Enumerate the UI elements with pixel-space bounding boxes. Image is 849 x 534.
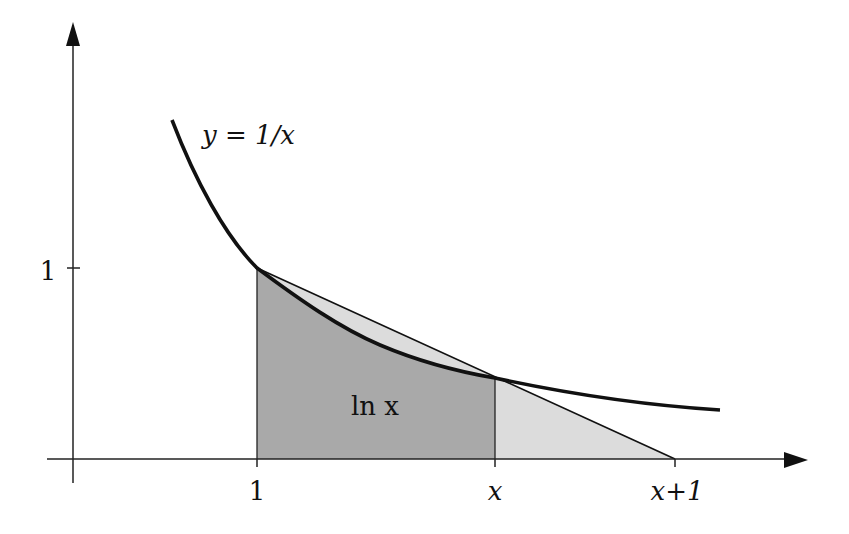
y-tick-label-1: 1: [40, 256, 57, 286]
x-tick-label-x-plus-1: x+1: [651, 476, 704, 506]
area-label: ln x: [351, 391, 399, 421]
x-tick-label-x: x: [488, 476, 503, 506]
y-axis-arrow-icon: [66, 22, 80, 46]
curve-1-over-x: [172, 120, 720, 410]
curve-label: y = 1/x: [201, 120, 295, 150]
x-tick-label-1: 1: [249, 476, 266, 506]
ln-area-diagram: y = 1/x 1 1 x x+1 ln x: [0, 0, 849, 534]
x-axis-arrow-icon: [784, 452, 808, 468]
